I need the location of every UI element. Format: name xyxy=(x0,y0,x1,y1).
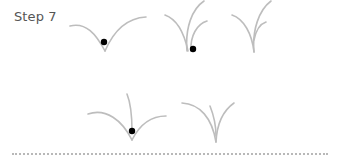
figure-2-tall-stroke xyxy=(187,1,204,51)
figure-4-left-stroke xyxy=(88,112,132,140)
figure-1-left-stroke xyxy=(70,25,105,51)
strokes-diagram xyxy=(0,0,344,164)
figure-3 xyxy=(232,1,271,52)
figure-3-tall-stroke xyxy=(254,1,271,52)
figure-4-vertical-stroke xyxy=(127,94,132,131)
figure-4 xyxy=(88,94,166,140)
figure-2-dot xyxy=(190,46,196,52)
figure-3-left-stroke xyxy=(232,15,254,52)
figure-4-right-stroke xyxy=(132,116,166,140)
figure-5 xyxy=(182,103,234,142)
figure-5-right-stroke xyxy=(216,103,234,142)
figure-1-dot xyxy=(101,39,107,45)
dotted-divider xyxy=(12,153,328,155)
figure-1 xyxy=(70,17,146,51)
figure-2-left-stroke xyxy=(165,15,188,51)
figure-1-right-stroke xyxy=(105,17,146,51)
figure-4-dot xyxy=(129,128,135,134)
figure-2 xyxy=(165,1,207,51)
